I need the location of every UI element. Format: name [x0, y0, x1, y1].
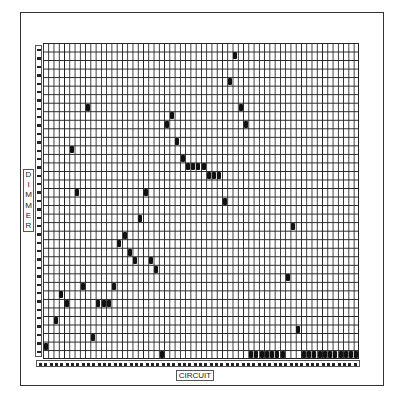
dimmer-label-letter: D — [24, 170, 33, 180]
data-point — [86, 104, 90, 111]
dimmer-tick — [37, 108, 41, 110]
circuit-tick — [258, 363, 261, 366]
dimmer-tick — [37, 258, 41, 260]
dimmer-tick — [37, 325, 41, 327]
circuit-tick — [183, 363, 186, 366]
data-point — [307, 351, 311, 358]
data-point — [323, 351, 327, 358]
data-point — [312, 351, 316, 358]
data-point — [333, 351, 337, 358]
circuit-axis — [36, 360, 360, 367]
dimmer-tick — [37, 74, 41, 76]
data-point — [144, 189, 148, 196]
circuit-tick — [50, 363, 53, 366]
data-point — [75, 189, 79, 196]
circuit-tick — [60, 363, 63, 366]
dimmer-label-letter: M — [24, 190, 33, 200]
data-point — [349, 351, 353, 358]
data-point — [133, 257, 137, 264]
data-point — [91, 334, 95, 341]
data-point — [286, 274, 290, 281]
circuit-tick — [82, 363, 85, 366]
circuit-tick — [300, 363, 303, 366]
dimmer-tick — [37, 150, 41, 152]
dimmer-tick — [37, 225, 41, 227]
dimmer-label-letter: E — [24, 211, 33, 221]
data-point — [328, 351, 332, 358]
circuit-tick — [135, 363, 138, 366]
data-point — [244, 121, 248, 128]
data-point — [281, 351, 285, 358]
data-point — [160, 351, 164, 358]
circuit-tick — [76, 363, 79, 366]
data-point — [165, 121, 169, 128]
data-point — [59, 291, 63, 298]
data-point — [81, 283, 85, 290]
data-point — [123, 232, 127, 239]
dimmer-label-letter: I — [24, 180, 33, 190]
data-point — [96, 300, 100, 307]
data-point — [254, 351, 258, 358]
data-point — [318, 351, 322, 358]
dimmer-label-letter: M — [24, 201, 33, 211]
data-point — [217, 172, 221, 179]
dimmer-tick — [37, 317, 41, 319]
circuit-tick — [98, 363, 101, 366]
dimmer-tick — [37, 275, 41, 277]
circuit-tick — [130, 363, 133, 366]
data-point — [102, 300, 106, 307]
circuit-tick — [215, 363, 218, 366]
circuit-tick — [226, 363, 229, 366]
circuit-tick — [220, 363, 223, 366]
dimmer-tick — [37, 342, 41, 344]
data-point — [154, 266, 158, 273]
data-point — [233, 52, 237, 59]
dimmer-tick — [37, 158, 41, 160]
circuit-tick — [322, 363, 325, 366]
dimmer-tick — [37, 267, 41, 269]
circuit-tick — [87, 363, 90, 366]
dimmer-tick — [37, 300, 41, 302]
data-point — [239, 104, 243, 111]
data-point — [191, 163, 195, 170]
data-point — [181, 155, 185, 162]
data-point — [207, 172, 211, 179]
dimmer-tick — [37, 351, 41, 353]
circuit-tick — [204, 363, 207, 366]
data-point — [344, 351, 348, 358]
circuit-tick — [311, 363, 314, 366]
circuit-tick — [332, 363, 335, 366]
circuit-tick — [172, 363, 175, 366]
data-point — [186, 163, 190, 170]
data-point — [291, 223, 295, 230]
circuit-tick — [167, 363, 170, 366]
circuit-tick — [66, 363, 69, 366]
dimmer-tick — [37, 116, 41, 118]
circuit-tick — [178, 363, 181, 366]
dimmer-tick — [37, 124, 41, 126]
dimmer-axis — [35, 45, 42, 357]
circuit-tick — [252, 363, 255, 366]
circuit-tick — [290, 363, 293, 366]
circuit-tick — [162, 363, 165, 366]
dimmer-tick — [37, 284, 41, 286]
data-point — [117, 240, 121, 247]
circuit-tick — [44, 363, 47, 366]
circuit-tick — [119, 363, 122, 366]
circuit-tick — [114, 363, 117, 366]
dimmer-tick — [37, 57, 41, 59]
dimmer-tick — [37, 200, 41, 202]
data-point — [339, 351, 343, 358]
dimmer-tick — [37, 217, 41, 219]
circuit-tick — [55, 363, 58, 366]
dimmer-label: DIMMER — [23, 169, 34, 232]
dimmer-tick — [37, 141, 41, 143]
circuit-tick — [71, 363, 74, 366]
circuit-tick — [194, 363, 197, 366]
circuit-tick — [199, 363, 202, 366]
circuit-tick — [327, 363, 330, 366]
circuit-tick — [92, 363, 95, 366]
dimmer-tick — [37, 183, 41, 185]
circuit-tick — [354, 363, 357, 366]
circuit-tick — [348, 363, 351, 366]
